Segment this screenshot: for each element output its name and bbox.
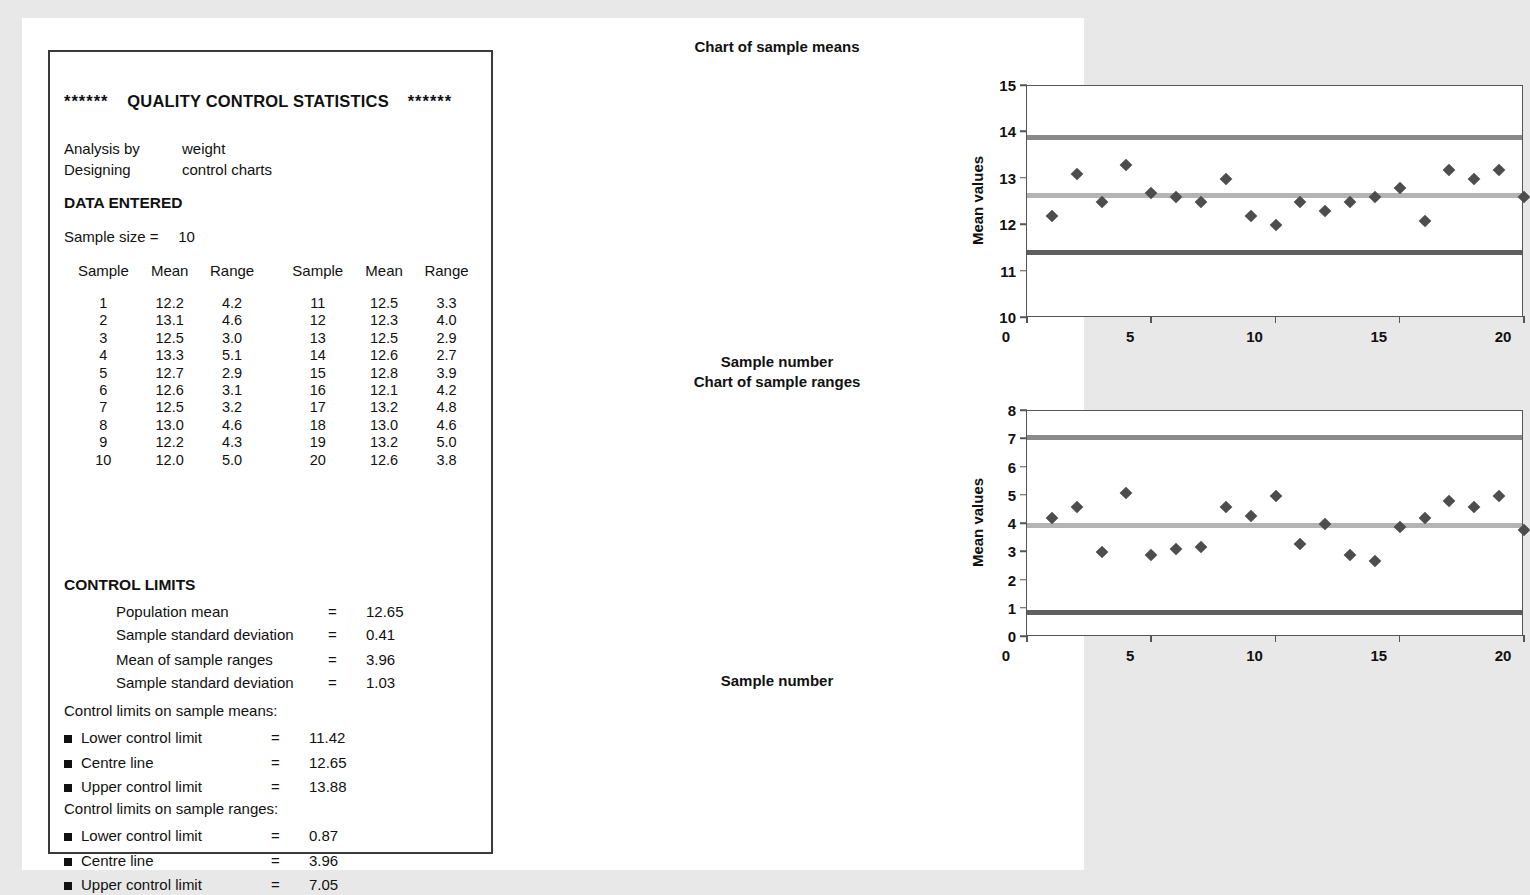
- cell-mean-r1: 12.2: [139, 295, 201, 312]
- bullet-square-icon: [64, 882, 72, 890]
- ytick-mark-means-13: [1020, 177, 1027, 179]
- ytick-mark-ranges-4: [1020, 522, 1027, 524]
- col-header-sample-1: Sample: [68, 262, 139, 295]
- y-axis-title-ranges: Mean values: [969, 410, 986, 636]
- cell-mean-r7: 12.5: [139, 399, 201, 416]
- analysis-info-block: Analysis by weight Designing control cha…: [64, 138, 272, 180]
- means-limit-row-0: Lower control limit=11.42: [64, 726, 369, 751]
- table-row: 413.35.11412.62.7: [68, 347, 478, 364]
- ytick-label-ranges-3: 3: [990, 543, 1016, 560]
- cell-range-r8: 4.6: [201, 417, 264, 434]
- data-point-means-17: [1443, 163, 1456, 176]
- means-limit-eq-0: =: [271, 726, 309, 751]
- stat-label-sample-sd-mean: Sample standard deviation: [116, 623, 328, 646]
- ytick-label-means-14: 14: [990, 123, 1016, 140]
- cell-spacer: [264, 312, 283, 329]
- table-header-row: Sample Mean Range Sample Mean Range: [68, 262, 478, 295]
- list-control-limits-on-ranges: Lower control limit=0.87Centre line=3.96…: [64, 824, 369, 895]
- bullet-square-icon: [64, 833, 72, 841]
- xtick-mark-means-10: [1275, 316, 1277, 323]
- ranges-limit-eq-2: =: [271, 873, 309, 895]
- cell-spacer: [264, 347, 283, 364]
- title-text: QUALITY CONTROL STATISTICS: [127, 92, 389, 110]
- cell-sample-r8: 18: [282, 417, 353, 434]
- sample-data-table: Sample Mean Range Sample Mean Range 112.…: [68, 262, 478, 469]
- cell-range-r4: 5.1: [201, 347, 264, 364]
- stat-value-population-mean: 12.65: [366, 600, 424, 623]
- ytick-mark-means-12: [1020, 223, 1027, 225]
- data-point-ranges-2: [1070, 501, 1083, 514]
- cell-sample-r2: 2: [68, 312, 139, 329]
- quality-control-report-panel: ****** QUALITY CONTROL STATISTICS ******…: [48, 50, 493, 854]
- data-point-means-18: [1468, 172, 1481, 185]
- cell-mean-r8: 13.0: [353, 417, 415, 434]
- cell-spacer: [264, 382, 283, 399]
- cell-sample-r8: 8: [68, 417, 139, 434]
- ytick-label-ranges-1: 1: [990, 599, 1016, 616]
- cell-mean-r3: 12.5: [139, 330, 201, 347]
- cell-sample-r7: 7: [68, 399, 139, 416]
- cell-spacer: [264, 452, 283, 469]
- ranges-limit-value-1: 3.96: [309, 849, 369, 874]
- cell-range-r4: 2.7: [415, 347, 478, 364]
- data-point-ranges-14: [1369, 554, 1382, 567]
- section-heading-control-limits: CONTROL LIMITS: [64, 576, 195, 594]
- chart-title-means: Chart of sample means: [497, 38, 1057, 55]
- sample-size-value: 10: [178, 228, 195, 245]
- data-point-means-12: [1319, 205, 1332, 218]
- data-point-ranges-5: [1145, 549, 1158, 562]
- cell-mean-r7: 13.2: [353, 399, 415, 416]
- stat-label-mean-of-ranges: Mean of sample ranges: [116, 648, 328, 671]
- stat-eq-mean-of-ranges: =: [328, 648, 366, 671]
- info-label-designing: Designing: [64, 159, 182, 180]
- cell-range-r9: 4.3: [201, 434, 264, 451]
- ytick-label-means-12: 12: [990, 216, 1016, 233]
- ranges-limit-label-0: Lower control limit: [81, 824, 271, 849]
- ytick-mark-means-15: [1020, 84, 1027, 86]
- cell-mean-r1: 12.5: [353, 295, 415, 312]
- bullet-square-icon: [64, 735, 72, 743]
- bullet-square-icon: [64, 784, 72, 792]
- control-line-ranges-centre-line: [1027, 523, 1522, 528]
- ytick-mark-ranges-8: [1020, 409, 1027, 411]
- cell-range-r10: 3.8: [415, 452, 478, 469]
- data-point-ranges-9: [1244, 509, 1257, 522]
- plot-area-ranges: [1026, 410, 1523, 636]
- table-row: 813.04.61813.04.6: [68, 417, 478, 434]
- cell-sample-r3: 13: [282, 330, 353, 347]
- means-limit-row-2: Upper control limit=13.88: [64, 775, 369, 800]
- data-point-means-8: [1219, 172, 1232, 185]
- col-header-range-1: Range: [201, 262, 264, 295]
- data-point-ranges-18: [1468, 501, 1481, 514]
- cell-spacer: [264, 295, 283, 312]
- ytick-label-means-15: 15: [990, 77, 1016, 94]
- data-point-ranges-10: [1269, 489, 1282, 502]
- cell-spacer: [264, 365, 283, 382]
- data-point-means-19: [1493, 163, 1506, 176]
- cell-sample-r1: 11: [282, 295, 353, 312]
- cell-sample-r5: 15: [282, 365, 353, 382]
- data-point-means-7: [1195, 196, 1208, 209]
- ranges-limit-label-1: Centre line: [81, 849, 271, 874]
- xtick-label-ranges-10: 10: [1235, 647, 1275, 664]
- control-line-ranges-upper-control-limit: [1027, 435, 1522, 440]
- sample-size-row: Sample size = 10: [64, 228, 195, 245]
- bullet-square-icon: [64, 858, 72, 866]
- cell-sample-r2: 12: [282, 312, 353, 329]
- data-point-ranges-6: [1170, 543, 1183, 556]
- info-value-analysis: weight: [182, 138, 225, 159]
- means-limit-value-1: 12.65: [309, 751, 369, 776]
- cell-sample-r1: 1: [68, 295, 139, 312]
- x-axis-title-means: Sample number: [497, 353, 1057, 370]
- xtick-label-ranges-0: 0: [986, 647, 1026, 664]
- cell-range-r2: 4.0: [415, 312, 478, 329]
- data-point-ranges-7: [1195, 540, 1208, 553]
- table-row: 312.53.01312.52.9: [68, 330, 478, 347]
- stat-eq-population-mean: =: [328, 600, 366, 623]
- ytick-label-means-13: 13: [990, 169, 1016, 186]
- cell-sample-r4: 4: [68, 347, 139, 364]
- ranges-limit-eq-0: =: [271, 824, 309, 849]
- data-point-ranges-19: [1493, 489, 1506, 502]
- data-point-ranges-12: [1319, 518, 1332, 531]
- stat-eq-sample-sd-mean: =: [328, 623, 366, 646]
